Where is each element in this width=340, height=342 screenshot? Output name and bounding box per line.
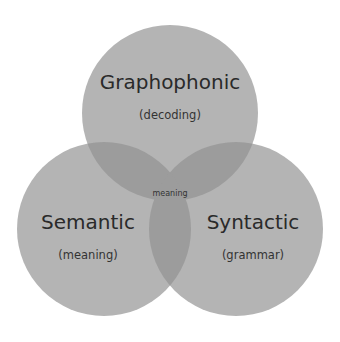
syntactic-subtitle: (grammar): [222, 248, 284, 262]
center-label: meaning: [152, 189, 187, 198]
semantic-subtitle: (meaning): [58, 248, 117, 262]
venn-diagram: Graphophonic (decoding) Semantic (meanin…: [0, 0, 340, 342]
venn-circles: [0, 0, 340, 342]
graphophonic-title: Graphophonic: [100, 70, 240, 94]
syntactic-title: Syntactic: [207, 210, 300, 234]
semantic-title: Semantic: [41, 210, 135, 234]
graphophonic-subtitle: (decoding): [139, 108, 201, 122]
